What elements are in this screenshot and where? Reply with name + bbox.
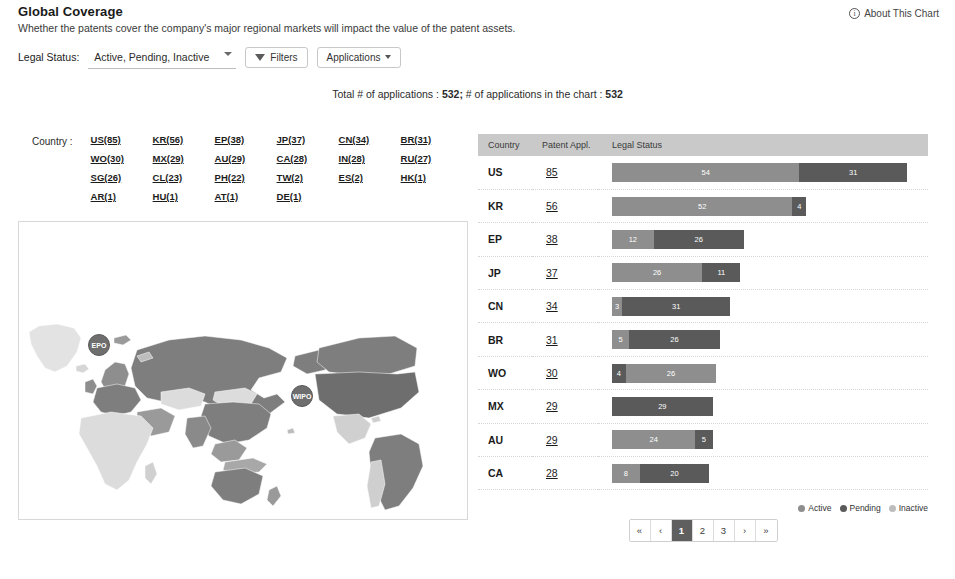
country-chip[interactable]: TW(2) — [277, 172, 339, 191]
bar-segment-active[interactable]: 52 — [612, 197, 792, 216]
table-body: US855431KR56524EP381226JP372611CN34331BR… — [478, 156, 928, 490]
country-chip[interactable]: PH(22) — [215, 172, 277, 191]
cell-legal-status-bar: 820 — [598, 457, 928, 490]
cell-patent-appl[interactable]: 34 — [532, 290, 598, 323]
legend-item-pending[interactable]: Pending — [840, 503, 881, 513]
country-chip[interactable]: KR(56) — [153, 134, 215, 153]
bar-segment-active[interactable]: 24 — [612, 430, 695, 449]
bar-segment-active[interactable]: 3 — [612, 297, 622, 316]
column-header-country[interactable]: Country — [478, 134, 532, 156]
cell-patent-appl[interactable]: 30 — [532, 356, 598, 389]
page-last[interactable]: » — [756, 520, 777, 541]
country-chip[interactable]: SG(26) — [91, 172, 153, 191]
country-chip[interactable]: BR(31) — [401, 134, 463, 153]
about-this-chart-label: About This Chart — [864, 8, 939, 19]
epo-badge[interactable]: EPO — [88, 334, 110, 356]
table-header: Country Patent Appl. Legal Status — [478, 134, 928, 156]
column-header-patent-appl[interactable]: Patent Appl. — [532, 134, 598, 156]
about-this-chart-link[interactable]: i About This Chart — [849, 8, 939, 19]
table-row[interactable]: EP381226 — [478, 223, 928, 256]
bar-segment-pending[interactable]: 11 — [702, 263, 740, 282]
country-chip[interactable]: HU(1) — [153, 191, 215, 210]
bar-segment-active[interactable]: 54 — [612, 163, 799, 182]
page-1[interactable]: 1 — [672, 520, 693, 541]
page-3[interactable]: 3 — [714, 520, 735, 541]
bar-segment-pending[interactable]: 5 — [695, 430, 712, 449]
applications-button[interactable]: Applications — [317, 47, 402, 68]
country-chip[interactable]: AR(1) — [91, 191, 153, 210]
cell-patent-appl[interactable]: 28 — [532, 457, 598, 490]
page-prev[interactable]: ‹ — [651, 520, 672, 541]
cell-patent-appl[interactable]: 85 — [532, 156, 598, 189]
bar-segment-active[interactable]: 26 — [626, 364, 716, 383]
country-chip[interactable]: MX(29) — [153, 153, 215, 172]
country-chip[interactable]: US(85) — [91, 134, 153, 153]
cell-patent-appl[interactable]: 29 — [532, 390, 598, 423]
legal-status-label: Legal Status: — [18, 51, 79, 63]
page-first[interactable]: « — [630, 520, 651, 541]
page-2[interactable]: 2 — [693, 520, 714, 541]
bar-segment-pending[interactable]: 20 — [640, 464, 709, 483]
country-chip[interactable]: AU(29) — [215, 153, 277, 172]
bar-segment-pending[interactable]: 26 — [654, 230, 744, 249]
table-row[interactable]: US855431 — [478, 156, 928, 189]
table-row[interactable]: CA28820 — [478, 457, 928, 490]
table-row[interactable]: WO30426 — [478, 356, 928, 389]
stacked-bar: 2611 — [612, 263, 918, 282]
stacked-bar: 524 — [612, 197, 918, 216]
page-next[interactable]: › — [735, 520, 756, 541]
cell-country: EP — [478, 223, 532, 256]
country-chip[interactable]: RU(27) — [401, 153, 463, 172]
column-header-legal-status[interactable]: Legal Status — [598, 134, 928, 156]
country-chip[interactable]: JP(37) — [277, 134, 339, 153]
bar-segment-pending[interactable]: 31 — [799, 163, 907, 182]
bar-segment-pending[interactable]: 4 — [612, 364, 626, 383]
country-chip[interactable]: IN(28) — [339, 153, 401, 172]
bar-segment-pending[interactable]: 4 — [792, 197, 806, 216]
bar-segment-active[interactable]: 8 — [612, 464, 640, 483]
wipo-badge[interactable]: WIPO — [291, 385, 313, 407]
cell-patent-appl[interactable]: 38 — [532, 223, 598, 256]
stacked-bar: 820 — [612, 464, 918, 483]
table-row[interactable]: KR56524 — [478, 189, 928, 222]
legal-status-select[interactable]: Active, Pending, Inactive — [88, 45, 236, 69]
table-row[interactable]: MX2929 — [478, 390, 928, 423]
filter-bar: Legal Status: Active, Pending, Inactive … — [18, 45, 401, 69]
bar-segment-active[interactable]: 5 — [612, 330, 629, 349]
country-chip[interactable]: DE(1) — [277, 191, 339, 210]
country-chip[interactable]: HK(1) — [401, 172, 463, 191]
applications-button-label: Applications — [327, 52, 381, 63]
stacked-bar: 331 — [612, 297, 918, 316]
cell-legal-status-bar: 1226 — [598, 223, 928, 256]
bar-segment-active[interactable]: 26 — [612, 263, 702, 282]
table-row[interactable]: AU29245 — [478, 423, 928, 456]
table-row[interactable]: JP372611 — [478, 256, 928, 289]
totals-line: Total # of applications : 532; # of appl… — [0, 88, 955, 100]
country-chip[interactable]: ES(2) — [339, 172, 401, 191]
world-map-panel[interactable]: EPO WIPO — [18, 221, 468, 520]
table-row[interactable]: BR31526 — [478, 323, 928, 356]
stacked-bar: 29 — [612, 397, 918, 416]
legend-swatch-icon — [889, 505, 896, 512]
bar-segment-active[interactable]: 12 — [612, 230, 654, 249]
filters-button[interactable]: Filters — [245, 47, 307, 68]
country-chip[interactable]: CL(23) — [153, 172, 215, 191]
country-chip[interactable]: CA(28) — [277, 153, 339, 172]
legend-item-active[interactable]: Active — [798, 503, 831, 513]
cell-patent-appl[interactable]: 31 — [532, 323, 598, 356]
country-chip[interactable]: CN(34) — [339, 134, 401, 153]
cell-legal-status-bar: 245 — [598, 423, 928, 456]
bar-segment-pending[interactable]: 31 — [622, 297, 730, 316]
legend-item-inactive[interactable]: Inactive — [889, 503, 928, 513]
country-chip[interactable]: WO(30) — [91, 153, 153, 172]
bar-segment-pending[interactable]: 26 — [629, 330, 719, 349]
table-row[interactable]: CN34331 — [478, 290, 928, 323]
bar-segment-pending[interactable]: 29 — [612, 397, 713, 416]
pagination: «‹123›» — [478, 519, 928, 542]
cell-patent-appl[interactable]: 37 — [532, 256, 598, 289]
cell-patent-appl[interactable]: 56 — [532, 189, 598, 222]
country-list-label: Country : — [32, 134, 73, 147]
cell-patent-appl[interactable]: 29 — [532, 423, 598, 456]
country-chip[interactable]: AT(1) — [215, 191, 277, 210]
country-chip[interactable]: EP(38) — [215, 134, 277, 153]
